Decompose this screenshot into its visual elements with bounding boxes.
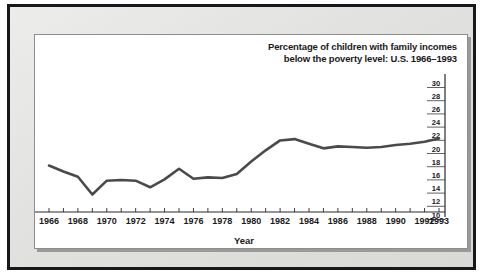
y-axis-tick-label: 14 [432,184,441,193]
y-axis-tick-label: 18 [432,158,440,167]
y-axis-tick-label: 24 [432,118,441,127]
y-axis-tick-label: 20 [432,145,440,154]
x-axis-tick-label: 1968 [68,216,88,226]
y-axis-tick-label: 16 [432,171,440,180]
x-axis-tick-label: 1972 [126,216,146,226]
y-axis-tick-label: 12 [432,197,440,206]
chart-panel: Percentage of children with family incom… [34,34,468,249]
x-axis-tick-label: 1966 [39,216,59,226]
chart-figure: Percentage of children with family incom… [0,0,483,277]
x-axis-title-group: Year [234,235,254,246]
x-axis-tick-label: 1993 [429,216,449,226]
x-axis-tick-label: 1978 [212,216,232,226]
x-axis-tick-label: 1988 [357,216,377,226]
x-axis-group: 1966196819701972197419761978198019821984… [35,208,449,226]
x-axis-title: Year [234,235,254,246]
y-axis-group: 3028262422201816141210 [427,74,445,220]
x-axis-tick-label: 1980 [241,216,261,226]
x-axis-tick-label: 1974 [155,216,175,226]
x-axis-tick-label: 1986 [328,216,348,226]
x-axis-tick-label: 1976 [183,216,203,226]
y-axis-tick-label: 26 [432,105,440,114]
x-axis-tick-label: 1984 [299,216,319,226]
x-axis-tick-label: 1970 [97,216,117,226]
x-axis-tick-label: 1990 [386,216,406,226]
y-axis-tick-label: 28 [432,92,440,101]
x-axis-tick-label: 1982 [270,216,290,226]
figure-outer-frame: Percentage of children with family incom… [7,4,476,270]
data-series-line [49,138,439,194]
chart-plot-area: 3028262422201816141210 19661968197019721… [35,35,469,250]
y-axis-tick-label: 30 [432,79,440,88]
series-group [49,138,439,194]
